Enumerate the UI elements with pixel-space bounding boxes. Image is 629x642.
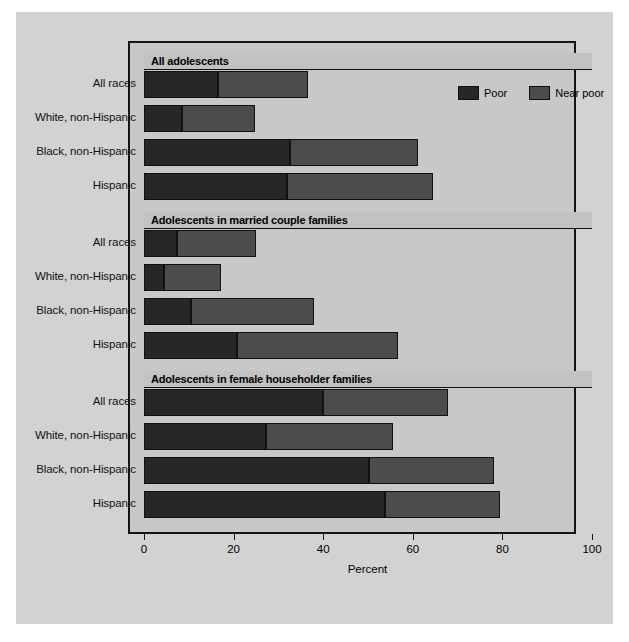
bar-segment-near-poor	[266, 423, 392, 450]
x-axis-tick	[502, 534, 503, 540]
y-axis-label: Hispanic	[6, 338, 136, 350]
y-axis-label: All races	[6, 236, 136, 248]
legend-label-near-poor: Near poor	[555, 87, 604, 99]
x-axis-tick	[323, 534, 324, 540]
bar-segment-near-poor	[369, 457, 494, 484]
x-axis-tick-label: 40	[303, 543, 343, 555]
chart-legend: Poor Near poor	[458, 86, 604, 100]
bar-segment-near-poor	[290, 139, 418, 166]
bar-segment-poor	[144, 457, 369, 484]
y-axis-label: White, non-Hispanic	[6, 429, 136, 441]
bar-segment-near-poor	[385, 491, 499, 518]
y-axis-label: Black, non-Hispanic	[6, 304, 136, 316]
bar-segment-poor	[144, 71, 218, 98]
x-axis-tick-label: 60	[393, 543, 433, 555]
bar-segment-poor	[144, 173, 287, 200]
legend-label-poor: Poor	[484, 87, 507, 99]
bar-segment-near-poor	[182, 105, 255, 132]
y-axis-label: White, non-Hispanic	[6, 111, 136, 123]
x-axis-tick	[234, 534, 235, 540]
bar-segment-near-poor	[218, 71, 308, 98]
bar-segment-poor	[144, 230, 177, 257]
bar-segment-near-poor	[164, 264, 221, 291]
bar-segment-poor	[144, 298, 191, 325]
panel-title: All adolescents	[148, 54, 229, 69]
bar-segment-poor	[144, 423, 266, 450]
legend-item-near-poor: Near poor	[529, 86, 604, 100]
x-axis-tick	[144, 534, 145, 540]
bar-segment-poor	[144, 332, 237, 359]
x-axis-tick	[413, 534, 414, 540]
x-axis-tick-label: 80	[482, 543, 522, 555]
y-axis-label: Hispanic	[6, 179, 136, 191]
y-axis-label: Black, non-Hispanic	[6, 463, 136, 475]
x-axis-title-text: Percent	[348, 563, 388, 575]
bar-segment-poor	[144, 264, 164, 291]
bar-segment-poor	[144, 389, 323, 416]
legend-swatch-near-poor	[529, 86, 550, 100]
bar-segment-near-poor	[287, 173, 432, 200]
x-axis-tick	[592, 534, 593, 540]
legend-item-poor: Poor	[458, 86, 507, 100]
y-axis-label: All races	[6, 77, 136, 89]
x-axis-tick-label: 0	[124, 543, 164, 555]
bar-segment-near-poor	[177, 230, 256, 257]
bar-segment-poor	[144, 139, 290, 166]
bar-segment-near-poor	[323, 389, 448, 416]
y-axis-label: All races	[6, 395, 136, 407]
bar-segment-near-poor	[237, 332, 397, 359]
x-axis-tick-label: 20	[214, 543, 254, 555]
y-axis-label: Black, non-Hispanic	[6, 145, 136, 157]
y-axis-label: White, non-Hispanic	[6, 270, 136, 282]
x-axis-title: Percent	[0, 563, 629, 575]
legend-swatch-poor	[458, 86, 479, 100]
bar-segment-near-poor	[191, 298, 314, 325]
panel-title: Adolescents in female householder famili…	[148, 372, 372, 387]
bar-segment-poor	[144, 105, 182, 132]
x-axis-tick-label: 100	[572, 543, 612, 555]
y-axis-label: Hispanic	[6, 497, 136, 509]
panel-title: Adolescents in married couple families	[148, 213, 348, 228]
bar-segment-poor	[144, 491, 385, 518]
